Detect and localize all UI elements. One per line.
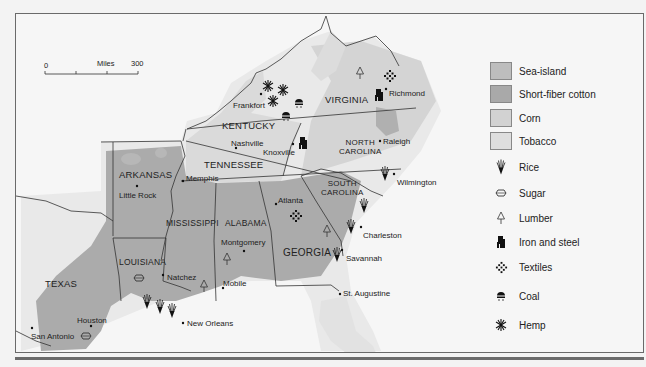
rice-icon (168, 303, 176, 318)
sea-island-swatch (490, 62, 512, 80)
city-natchez: Natchez (167, 273, 196, 282)
state-mississippi: MISSISSIPPI (166, 218, 219, 228)
textiles-icon (490, 259, 512, 275)
state-tennessee: TENNESSEE (204, 159, 263, 170)
state-georgia: GEORGIA (283, 247, 331, 258)
legend-item-sea-island: Sea-island (490, 62, 566, 80)
state-texas: TEXAS (45, 278, 77, 289)
state-virginia: VIRGINIA (325, 94, 368, 105)
state-louisiana: LOUISIANA (119, 257, 166, 267)
legend-item-sugar: Sugar (490, 185, 546, 201)
hemp-icon (490, 317, 512, 333)
state-florida: FLORIDA (329, 351, 369, 353)
scale-start: 0 (44, 61, 48, 70)
legend-item-tobacco: Tobacco (490, 132, 556, 150)
legend-item-rice: Rice (490, 159, 539, 175)
legend-item-hemp: Hemp (490, 317, 546, 333)
legend-item-iron-steel: Iron and steel (490, 234, 580, 250)
state-north-carolina: NORTHCAROLINA (339, 138, 382, 156)
state-kentucky: KENTUCKY (222, 120, 275, 131)
corn-swatch (490, 109, 512, 127)
bottom-rule (15, 357, 644, 360)
city-san-antonio: San Antonio (31, 332, 74, 341)
city-savannah: Savannah (346, 254, 382, 263)
city-nashville: Nashville (231, 139, 263, 148)
legend-item-lumber: Lumber (490, 210, 553, 226)
lumber-icon (490, 210, 512, 226)
rice-icon (490, 159, 512, 175)
legend-item-coal: Coal (490, 288, 540, 304)
legend-item-textiles: Textiles (490, 259, 552, 275)
city-richmond: Richmond (389, 89, 425, 98)
scale-bar (45, 71, 138, 74)
city-little-rock: Little Rock (119, 191, 156, 200)
state-arkansas: ARKANSAS (119, 169, 172, 180)
legend-item-short-fiber-cotton: Short-fiber cotton (490, 85, 596, 103)
legend-item-corn: Corn (490, 109, 541, 127)
city-atlanta: Atlanta (278, 196, 303, 205)
scale-end: 300 (131, 59, 144, 68)
city-houston: Houston (77, 316, 107, 325)
city-wilmington: Wilmington (397, 178, 437, 187)
city-montgomery: Montgomery (221, 238, 265, 247)
city-knoxville: Knoxville (263, 148, 295, 157)
city-mobile: Mobile (223, 279, 247, 288)
map-frame: 0 Miles 300 VIRGINIA KENTUCKY TENNESSEE … (15, 13, 644, 353)
city-st-augustine: St. Augustine (343, 289, 390, 298)
city-memphis: Memphis (186, 174, 218, 183)
city-new-orleans: New Orleans (187, 319, 233, 328)
cotton-swatch (490, 85, 512, 103)
sugar-icon (490, 185, 512, 201)
city-raleigh: Raleigh (383, 137, 410, 146)
coal-icon (490, 288, 512, 304)
state-south-carolina: SOUTHCAROLINA (321, 179, 364, 197)
city-frankfort: Frankfort (233, 101, 265, 110)
tobacco-swatch (490, 132, 512, 150)
state-alabama: ALABAMA (225, 218, 267, 228)
iron-steel-icon (490, 234, 512, 250)
scale-unit: Miles (97, 59, 115, 68)
city-charleston: Charleston (363, 231, 402, 240)
